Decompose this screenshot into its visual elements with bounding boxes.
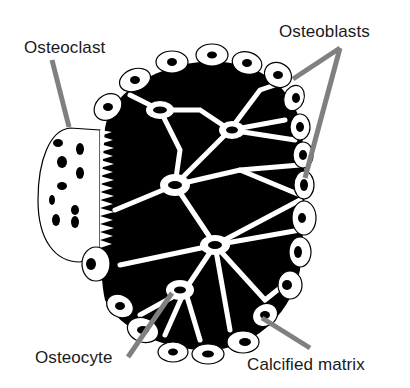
osteoclast-cell	[38, 128, 100, 262]
diagram-canvas	[0, 0, 410, 388]
leader-calcified-matrix	[262, 318, 310, 348]
label-osteoclast: Osteoclast	[24, 38, 105, 58]
leader-osteoclast	[52, 60, 69, 127]
label-osteoblasts: Osteoblasts	[279, 22, 370, 42]
bone-tissue-diagram: Osteoclast Osteoblasts Osteocyte Calcifi…	[0, 0, 410, 388]
label-osteocyte: Osteocyte	[35, 348, 112, 368]
label-calcified-matrix: Calcified matrix	[247, 355, 365, 375]
